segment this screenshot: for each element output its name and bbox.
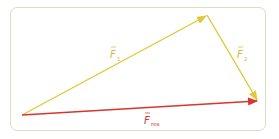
label-fres: F res	[144, 113, 160, 127]
vector-f2	[207, 15, 257, 100]
vector-f1	[22, 16, 206, 115]
label-f1-symbol: F	[110, 49, 116, 60]
label-f2-symbol: F	[237, 49, 243, 60]
label-f1-subscript: 1	[117, 56, 121, 62]
label-f2: F 2	[237, 47, 248, 62]
vector-fres	[22, 101, 257, 115]
label-fres-symbol: F	[144, 115, 150, 126]
label-f2-subscript: 2	[244, 56, 248, 62]
vector-diagram: F 1 F 2 F res	[0, 0, 279, 139]
label-fres-subscript: res	[151, 121, 160, 127]
label-f1: F 1	[110, 47, 121, 62]
